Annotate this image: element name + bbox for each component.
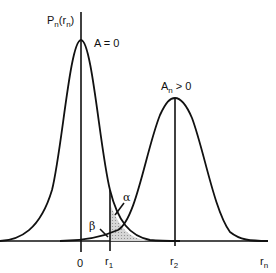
x-tick-r1: r1 <box>105 256 113 267</box>
null-curve-label: A = 0 <box>94 38 119 49</box>
signal-curve-label: An > 0 <box>161 81 191 92</box>
null-distribution-curve <box>0 40 180 241</box>
diagram-canvas <box>0 0 276 273</box>
x-axis-label-rn: rn <box>260 256 268 267</box>
alpha-label: α <box>123 192 130 203</box>
x-tick-0: 0 <box>77 258 83 269</box>
detection-diagram: Pn(rn) A = 0 An > 0 α β 0 r1 r2 rn <box>0 0 276 273</box>
y-axis-label: Pn(rn) <box>47 15 74 26</box>
x-tick-r2: r2 <box>170 256 178 267</box>
beta-label: β <box>89 221 95 232</box>
